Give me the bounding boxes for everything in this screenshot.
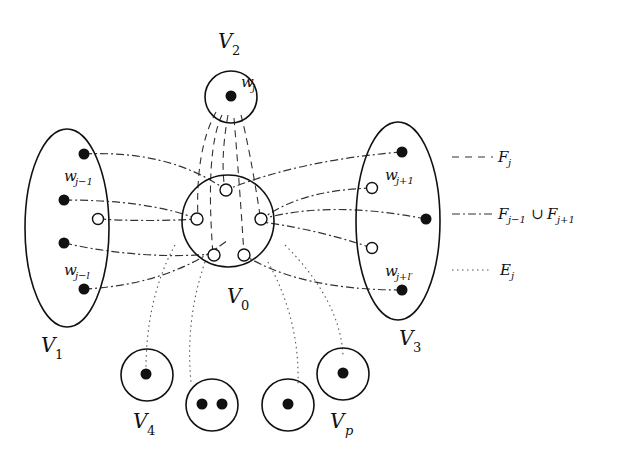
vertex-wj [226, 91, 237, 102]
set-V2: w j V 2 [205, 29, 257, 123]
svg-text:j−1: j−1 [73, 176, 93, 187]
set-two-vertices [186, 379, 238, 431]
set-V0: V 0 [182, 175, 274, 313]
set-V4: V 4 [121, 349, 173, 438]
set-one-vertex [262, 379, 314, 431]
set-Vp: V p [317, 348, 369, 438]
svg-text:j−1: j−1 [506, 214, 526, 225]
svg-text:1: 1 [55, 347, 63, 362]
set-V1: w j−1 w j−l V 1 [25, 129, 109, 362]
edges-Fj [198, 112, 260, 255]
svg-text:j+l′: j+l′ [394, 271, 414, 282]
edges-Fj-1-union-Fj+1 [64, 152, 426, 290]
legend: F j F j−1 ∪ F j+1 E j [452, 148, 575, 281]
edges-Ej [146, 245, 343, 385]
svg-text:4: 4 [147, 423, 155, 438]
svg-text:j+1: j+1 [555, 214, 575, 225]
diagram-canvas: w j V 2 V 0 w j−1 w j−l V 1 w [0, 0, 623, 467]
svg-text:j−l: j−l [73, 270, 90, 281]
svg-text:j+1: j+1 [394, 175, 414, 186]
svg-text:3: 3 [413, 340, 421, 355]
svg-text:0: 0 [241, 298, 249, 313]
svg-text:∪: ∪ [531, 205, 544, 223]
svg-text:2: 2 [232, 43, 240, 58]
set-V3: w j+1 w j+l′ V 3 [356, 122, 440, 355]
svg-text:p: p [345, 423, 354, 438]
svg-text:E: E [499, 261, 511, 279]
